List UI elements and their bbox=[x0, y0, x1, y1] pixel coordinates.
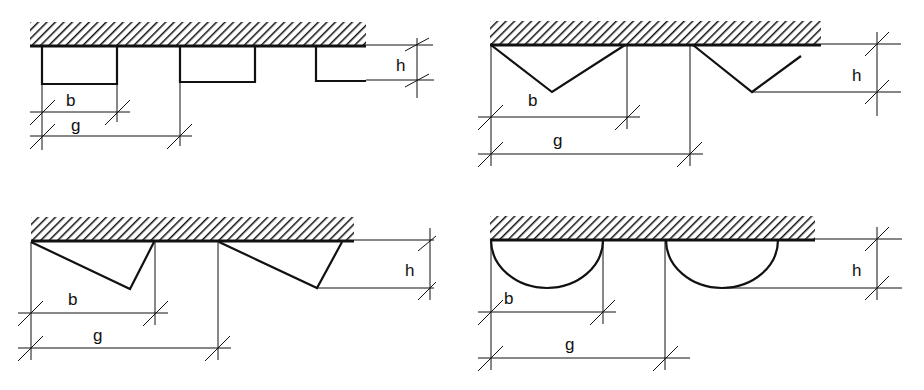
label-b: b bbox=[66, 91, 75, 110]
label-b: b bbox=[68, 290, 77, 309]
panel-rectangular: h b g bbox=[30, 22, 434, 150]
hatched-surface bbox=[490, 216, 815, 239]
rib-profile bbox=[491, 45, 625, 92]
label-b: b bbox=[504, 289, 513, 308]
label-h: h bbox=[396, 56, 405, 75]
rib-profile bbox=[42, 46, 117, 84]
rib-profile bbox=[693, 45, 801, 92]
hatched-surface bbox=[31, 217, 354, 240]
rib-profile bbox=[491, 240, 603, 288]
label-g: g bbox=[553, 131, 562, 150]
label-h: h bbox=[852, 261, 861, 280]
rib-profile bbox=[31, 242, 154, 289]
rib-profile bbox=[666, 240, 778, 288]
label-b: b bbox=[528, 91, 537, 110]
label-h: h bbox=[405, 261, 414, 280]
label-g: g bbox=[71, 116, 80, 135]
hatched-surface bbox=[490, 21, 821, 44]
panel-semicircular: h b g bbox=[478, 216, 902, 371]
panel-triangular-asymmetric: h b g bbox=[18, 217, 436, 361]
rib-profiles-diagram: h b g h b bbox=[0, 0, 924, 390]
label-g: g bbox=[565, 335, 574, 354]
rib-profile bbox=[316, 46, 366, 81]
rib-profile bbox=[219, 242, 342, 288]
label-g: g bbox=[93, 326, 102, 345]
hatched-surface bbox=[30, 22, 366, 45]
rib-profile bbox=[180, 46, 255, 82]
panel-triangular-symmetric: h b g bbox=[478, 21, 901, 167]
label-h: h bbox=[852, 66, 861, 85]
